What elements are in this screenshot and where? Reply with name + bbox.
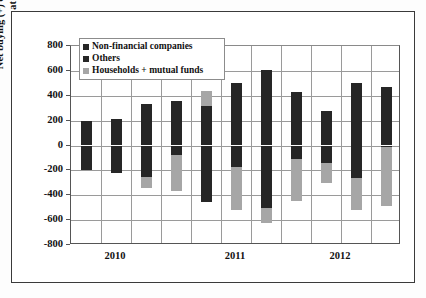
segment-households-negative (171, 155, 182, 191)
bar-2012Q1 (321, 46, 332, 245)
segment-households-negative (381, 147, 392, 206)
legend-label-nonfinancial: Non-financial companies (92, 42, 193, 52)
legend-item-0: Non-financial companies (83, 41, 221, 52)
x-axis-label-2010: 2010 (89, 250, 141, 261)
segment-others-negative (291, 146, 302, 160)
chart-figure: Net buying (+) or selling (-) $bn by sec… (0, 0, 426, 298)
segment-households-positive (201, 91, 212, 106)
legend-swatch-others (83, 56, 89, 62)
category-divider-6 (251, 46, 252, 243)
x-axis-label-2012: 2012 (314, 250, 366, 261)
category-divider-9 (341, 46, 342, 243)
legend-swatch-households (83, 68, 89, 74)
bar-2012Q2 (351, 46, 362, 245)
category-divider-8 (311, 46, 312, 243)
segment-nonfinancial-positive (201, 106, 212, 146)
category-divider-10 (371, 46, 372, 243)
segment-nonfinancial-positive (81, 121, 92, 145)
bar-2012Q3 (381, 46, 392, 245)
segment-households-negative (291, 159, 302, 201)
legend-item-1: Others (83, 53, 221, 64)
x-axis-label-2011: 2011 (209, 250, 261, 261)
segment-nonfinancial-positive (231, 83, 242, 146)
segment-others-negative (171, 146, 182, 155)
segment-others-negative (261, 146, 272, 209)
segment-nonfinancial-positive (111, 119, 122, 145)
segment-nonfinancial-positive (171, 101, 182, 145)
legend-label-households: Households + mutual funds (92, 66, 203, 76)
segment-households-negative (231, 167, 242, 210)
segment-nonfinancial-positive (351, 83, 362, 145)
bar-2011Q3 (261, 46, 272, 245)
legend-label-others: Others (92, 54, 120, 64)
segment-nonfinancial-positive (381, 87, 392, 145)
segment-others-negative (111, 146, 122, 173)
segment-others-negative (141, 146, 152, 177)
segment-households-negative (351, 178, 362, 210)
segment-households-negative (321, 163, 332, 183)
bar-2011Q2 (231, 46, 242, 245)
bar-2011Q4 (291, 46, 302, 245)
segment-nonfinancial-positive (321, 111, 332, 146)
legend-swatch-nonfinancial (83, 44, 89, 50)
category-divider-7 (281, 46, 282, 243)
segment-others-negative (231, 146, 242, 167)
segment-others-negative (201, 146, 212, 203)
segment-others-negative (81, 146, 92, 170)
legend-item-2: Households + mutual funds (83, 65, 221, 76)
segment-nonfinancial-positive (291, 92, 302, 145)
segment-households-negative (261, 208, 272, 222)
chart-legend: Non-financial companies Others Household… (79, 38, 225, 80)
segment-nonfinancial-positive (141, 104, 152, 145)
segment-others-negative (351, 146, 362, 179)
segment-households-negative (141, 177, 152, 188)
segment-others-negative (321, 146, 332, 163)
segment-nonfinancial-positive (261, 70, 272, 146)
